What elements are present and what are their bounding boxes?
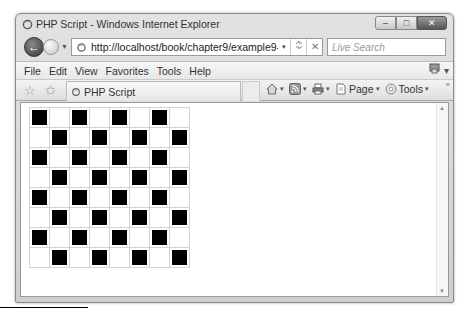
board-square-black [50,128,70,148]
board-square-white [70,208,90,228]
toolbar-options-button[interactable]: ▾ [429,63,449,76]
board-square-white [90,188,110,208]
maximize-button[interactable]: □ [396,16,417,30]
print-dropdown-caret[interactable]: ▾ [326,85,330,93]
board-square-white [170,108,190,128]
feeds-dropdown-caret[interactable]: ▾ [303,85,307,93]
board-square-black [30,188,50,208]
search-input[interactable] [328,42,466,53]
scroll-up-arrow[interactable]: ▲ [439,105,445,111]
page-menu-label: Page [349,83,374,95]
board-square-white [50,228,70,248]
board-square-white [130,188,150,208]
menu-edit[interactable]: Edit [45,65,71,77]
board-square-black [130,208,150,228]
board-square-white [30,168,50,188]
board-square-black [70,148,90,168]
tools-menu-button[interactable]: Tools ▾ [385,83,430,95]
add-to-favorites-button[interactable]: ✩ [45,83,56,98]
url-input[interactable]: http://localhost/book/chapter9/example9-… [91,41,278,53]
page-menu-caret: ▾ [376,85,380,93]
board-row [30,188,190,208]
print-button[interactable]: ▾ [312,83,330,95]
toolbar-options-icon [429,63,441,74]
board-square-black [50,208,70,228]
menu-tools[interactable]: Tools [153,65,186,77]
address-bar[interactable]: http://localhost/book/chapter9/example9-… [71,38,323,56]
gear-icon [385,83,397,95]
board-square-white [70,248,90,268]
menu-favorites[interactable]: Favorites [102,65,153,77]
more-commands-chevron[interactable]: » [446,80,450,89]
board-square-white [150,208,170,228]
board-square-black [170,248,190,268]
tab-php-script[interactable]: PHP Script [66,81,241,101]
board-square-black [70,108,90,128]
command-buttons: ▾ ▾ ▾ [266,83,429,95]
stop-button[interactable]: ✕ [306,39,322,55]
menu-help[interactable]: Help [185,65,215,77]
board-square-black [170,208,190,228]
checkerboard [29,107,190,268]
page-menu-button[interactable]: Page ▾ [335,83,380,95]
board-square-black [130,128,150,148]
board-square-black [110,228,130,248]
history-dropdown[interactable]: ▼ [61,43,68,50]
home-button[interactable]: ▾ [266,83,284,95]
board-square-black [110,188,130,208]
new-tab-button[interactable] [242,81,260,101]
board-square-white [110,128,130,148]
navigation-bar: ← ▼ http://localhost/book/chapter9/examp… [16,33,453,60]
board-square-black [110,108,130,128]
close-button[interactable]: ✕ [417,16,447,30]
window-title: PHP Script - Windows Internet Explorer [36,18,220,30]
tools-menu-label: Tools [399,83,424,95]
address-dropdown[interactable]: ▾ [278,43,290,51]
refresh-button[interactable] [290,39,306,55]
board-square-black [90,168,110,188]
board-square-white [50,188,70,208]
scroll-down-arrow[interactable]: ▼ [439,288,445,294]
window-controls: – □ ✕ [375,16,447,30]
rss-feed-icon [289,83,301,95]
toolbar-options-caret: ▾ [444,65,449,76]
board-square-white [90,228,110,248]
browser-window: PHP Script - Windows Internet Explorer –… [15,13,454,303]
board-square-black [150,148,170,168]
board-square-white [150,128,170,148]
menu-file[interactable]: File [20,65,45,77]
board-square-white [50,148,70,168]
board-square-white [170,228,190,248]
board-square-white [70,168,90,188]
ie-logo-icon [22,19,33,30]
board-square-black [70,188,90,208]
board-square-white [30,208,50,228]
board-row [30,248,190,268]
board-square-white [50,108,70,128]
page-content: ▲ ▼ [20,102,449,297]
board-square-white [70,128,90,148]
page-favicon-icon [71,87,81,97]
board-square-black [130,248,150,268]
tools-menu-caret: ▾ [425,85,429,93]
board-row [30,108,190,128]
page-icon [76,42,87,53]
board-square-black [170,168,190,188]
home-dropdown-caret[interactable]: ▾ [280,85,284,93]
feeds-button[interactable]: ▾ [289,83,307,95]
board-square-white [130,148,150,168]
board-square-black [50,248,70,268]
vertical-scrollbar[interactable]: ▲ ▼ [436,103,448,296]
menu-view[interactable]: View [71,65,102,77]
board-square-white [130,228,150,248]
minimize-button[interactable]: – [375,16,396,30]
forward-button[interactable] [43,39,59,55]
favorites-center-button[interactable]: ☆ [24,83,36,98]
board-square-black [170,128,190,148]
title-bar[interactable]: PHP Script - Windows Internet Explorer –… [16,14,453,34]
board-square-white [110,248,130,268]
board-square-black [130,168,150,188]
back-button[interactable]: ← [24,37,44,57]
board-row [30,148,190,168]
board-square-black [30,108,50,128]
